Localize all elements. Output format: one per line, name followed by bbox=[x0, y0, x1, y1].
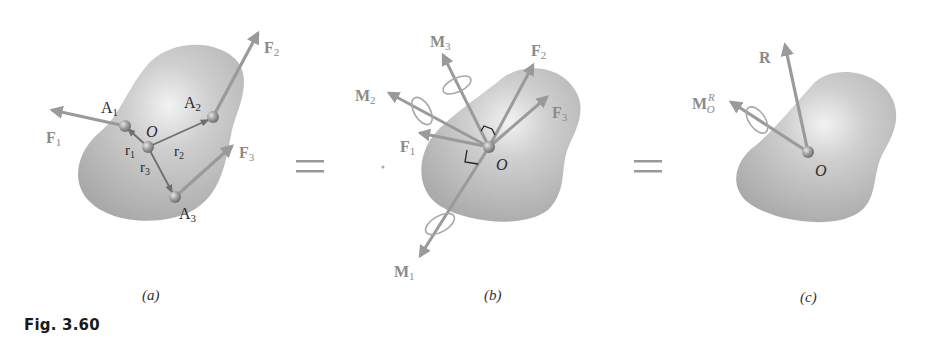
caption-b: (b) bbox=[484, 287, 502, 304]
rigid-body bbox=[421, 68, 580, 221]
figure-number: Fig. 3.60 bbox=[24, 316, 100, 334]
rigid-body bbox=[736, 72, 896, 222]
origin-O bbox=[483, 141, 495, 153]
label-F2: F2 bbox=[531, 42, 546, 61]
label-F1: F1 bbox=[400, 138, 415, 157]
label-MOR: MRO bbox=[692, 91, 715, 115]
point-A1 bbox=[119, 120, 131, 132]
label-M1: M1 bbox=[394, 263, 415, 282]
origin-O bbox=[802, 146, 814, 158]
caption-c: (c) bbox=[800, 289, 817, 306]
label-O: O bbox=[146, 123, 158, 140]
caption-a: (a) bbox=[142, 287, 160, 304]
point-A3 bbox=[169, 191, 181, 203]
panel-c: R MRO O (c) bbox=[692, 45, 896, 306]
panel-b: M1 M2 M3 F1 F2 F3 O (b) bbox=[355, 33, 581, 304]
equals-sign-1 bbox=[296, 160, 324, 173]
panel-a: F1 F2 F3 A1 A2 A3 O r1 r2 r3 (a) bbox=[46, 33, 279, 304]
label-R: R bbox=[759, 49, 771, 66]
rigid-body bbox=[78, 45, 244, 221]
label-O: O bbox=[496, 156, 508, 173]
label-A1: A1 bbox=[101, 99, 118, 118]
label-O: O bbox=[815, 162, 827, 179]
equivalent-force-couple-diagram: F1 F2 F3 A1 A2 A3 O r1 r2 r3 (a) bbox=[0, 0, 943, 342]
point-A2 bbox=[207, 111, 219, 123]
equals-sign-2 bbox=[634, 160, 662, 173]
stray-dot bbox=[382, 166, 385, 169]
label-F3: F3 bbox=[239, 144, 255, 163]
origin-O bbox=[142, 141, 154, 153]
label-M3: M3 bbox=[430, 33, 451, 52]
label-F2: F2 bbox=[264, 39, 279, 58]
label-M2: M2 bbox=[355, 87, 376, 106]
label-F1: F1 bbox=[46, 129, 61, 148]
